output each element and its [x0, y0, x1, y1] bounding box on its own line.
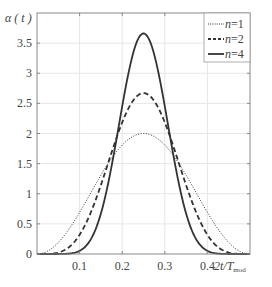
- curve-n-4: [37, 33, 250, 254]
- y-tick-label: 1: [26, 187, 32, 201]
- x-tick-label: 0.3: [157, 259, 172, 273]
- y-axis-label: α ( t ): [5, 11, 32, 25]
- svg-text:2t/Tmod: 2t/Tmod: [214, 259, 246, 274]
- y-tick-label: 0: [26, 247, 32, 261]
- legend-label: n=1: [225, 17, 244, 31]
- chart: 00.511.522.533.5 0.10.20.30.4 α ( t ) 2t…: [0, 0, 272, 287]
- legend-label: n=4: [225, 47, 244, 61]
- curves: [37, 33, 250, 254]
- x-tick-label: 0.4: [200, 259, 215, 273]
- legend-label: n=2: [225, 32, 244, 46]
- x-tick-label: 0.2: [115, 259, 130, 273]
- legend: n=1n=2n=4: [204, 13, 250, 62]
- y-tick-label: 1.5: [17, 157, 32, 171]
- y-tick-label: 3.5: [17, 36, 32, 50]
- y-tick-label: 0.5: [17, 217, 32, 231]
- y-tick-label: 2.5: [17, 96, 32, 110]
- y-axis-ticks: 00.511.522.533.5: [17, 36, 250, 261]
- y-tick-label: 2: [26, 127, 32, 141]
- y-tick-label: 3: [26, 66, 32, 80]
- x-tick-label: 0.1: [72, 259, 87, 273]
- x-axis-label: 2t/Tmod: [214, 259, 246, 274]
